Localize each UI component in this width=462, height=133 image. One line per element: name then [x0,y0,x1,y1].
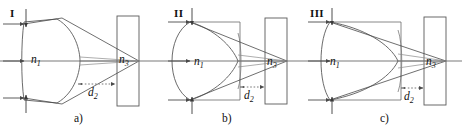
panel-b: II [152,0,304,133]
panel-c-caption: c) [380,112,389,124]
panel-a-gap-label: d2 [88,86,98,101]
panel-a: I [0,0,152,133]
panel-c-lens-label: n1 [330,55,340,70]
gap-dimension-arrow-left [401,87,405,89]
panel-b-lens-label: n1 [194,55,204,70]
panel-b-gap-label: d2 [244,89,254,104]
gap-dimension-arrow-left [78,83,82,85]
panel-b-caption: b) [222,112,232,124]
panel-c-block-label: n3 [426,55,436,70]
gap-dimension-arrow-left [240,86,244,88]
ray-inner-top [398,54,446,61]
panel-c: III [304,0,462,133]
panel-a-block-label: n3 [119,53,129,68]
ray-inner-bottom [398,61,446,68]
ray-bottom-inside [24,98,62,104]
panel-c-gap-label: d2 [404,90,414,105]
ray-top-inside [24,18,62,24]
panel-a-lens-label: n1 [31,53,41,68]
optical-diagram-figure: I [0,0,462,133]
panel-a-caption: a) [74,112,83,124]
panel-b-block-label: n3 [267,55,277,70]
